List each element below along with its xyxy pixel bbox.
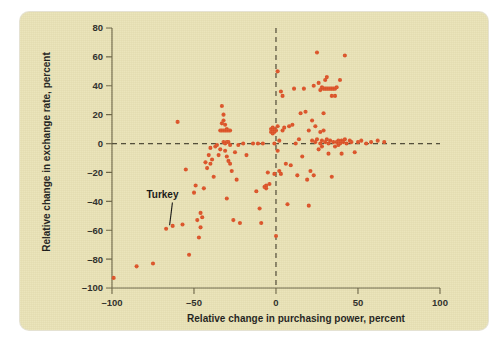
data-point — [228, 162, 232, 166]
data-point — [251, 142, 255, 146]
chart-panel: –100–80–60–40–20020406080–100–50050100 T… — [20, 12, 488, 330]
data-point — [290, 123, 294, 127]
data-point — [307, 204, 311, 208]
data-point — [176, 120, 180, 124]
data-point — [197, 235, 201, 239]
data-point — [220, 104, 224, 108]
data-point — [238, 221, 242, 225]
data-point — [364, 142, 368, 146]
data-point — [266, 170, 270, 174]
data-point — [330, 175, 334, 179]
data-point — [353, 150, 357, 154]
data-point — [279, 90, 283, 94]
data-point — [295, 173, 299, 177]
y-axis-tick-label: –100 — [82, 282, 103, 293]
x-axis-title: Relative change in purchasing power, per… — [187, 313, 406, 324]
data-point — [259, 221, 263, 225]
data-point — [376, 139, 380, 143]
data-point — [285, 202, 289, 206]
data-point — [225, 196, 229, 200]
data-point — [258, 207, 262, 211]
data-point — [236, 143, 240, 147]
axes-group — [106, 28, 440, 294]
y-axis-tick-label: 80 — [92, 22, 103, 33]
data-points-group — [112, 51, 387, 280]
data-point — [264, 186, 268, 190]
data-point — [192, 191, 196, 195]
data-point — [299, 111, 303, 115]
data-point — [205, 166, 209, 170]
y-axis-tick-label: 20 — [92, 109, 103, 120]
data-point — [335, 85, 339, 89]
data-point — [276, 69, 280, 73]
data-point — [289, 163, 293, 167]
y-axis-tick-label: –80 — [87, 254, 103, 265]
figure-container: –100–80–60–40–20020406080–100–50050100 T… — [0, 0, 502, 347]
data-point — [225, 155, 229, 159]
annotation-label: Turkey — [146, 189, 178, 200]
data-point — [274, 129, 278, 133]
annotation-leader-line — [170, 202, 173, 225]
data-point — [223, 149, 227, 153]
data-point — [228, 143, 232, 147]
data-point — [305, 178, 309, 182]
data-point — [217, 153, 221, 157]
data-point — [343, 53, 347, 57]
x-axis-tick-label: –100 — [101, 297, 122, 308]
data-point — [195, 218, 199, 222]
data-point — [215, 143, 219, 147]
data-point — [349, 140, 353, 144]
data-point — [241, 142, 245, 146]
data-point — [231, 218, 235, 222]
data-point — [187, 253, 191, 257]
data-point — [317, 81, 321, 85]
data-point — [312, 173, 316, 177]
data-point — [276, 124, 280, 128]
data-point — [171, 224, 175, 228]
y-axis-tick-label: –60 — [87, 225, 103, 236]
data-point — [180, 222, 184, 226]
data-point — [223, 123, 227, 127]
y-axis-tick-label: –20 — [87, 167, 103, 178]
data-point — [207, 153, 211, 157]
data-point — [199, 225, 203, 229]
data-point — [284, 162, 288, 166]
data-point — [221, 113, 225, 117]
y-axis-title: Relative change in exchange rate, percen… — [41, 52, 52, 252]
data-point — [281, 94, 285, 98]
data-point — [200, 215, 204, 219]
data-point — [256, 142, 260, 146]
x-axis-tick-label: 0 — [273, 297, 278, 308]
data-point — [297, 137, 301, 141]
data-point — [202, 186, 206, 190]
data-point — [194, 183, 198, 187]
scatter-plot: –100–80–60–40–20020406080–100–50050100 T… — [20, 12, 488, 330]
data-point — [230, 169, 234, 173]
data-point — [325, 75, 329, 79]
data-point — [203, 160, 207, 164]
data-point — [279, 172, 283, 176]
data-point — [199, 211, 203, 215]
data-point — [261, 142, 265, 146]
data-point — [112, 276, 116, 280]
data-point — [184, 168, 188, 172]
data-point — [208, 162, 212, 166]
data-point — [218, 147, 222, 151]
x-axis-tick-label: –50 — [186, 297, 202, 308]
data-point — [254, 189, 258, 193]
data-point — [333, 94, 337, 98]
data-point — [315, 137, 319, 141]
data-point — [340, 152, 344, 156]
data-point — [315, 51, 319, 55]
data-point — [135, 264, 139, 268]
x-axis-tick-label: 100 — [432, 297, 448, 308]
data-point — [282, 126, 286, 130]
data-point — [244, 153, 248, 157]
data-point — [272, 142, 276, 146]
data-point — [235, 178, 239, 182]
data-point — [359, 139, 363, 143]
data-point — [292, 87, 296, 91]
data-point — [302, 87, 306, 91]
data-point — [300, 155, 304, 159]
data-point — [320, 144, 324, 148]
